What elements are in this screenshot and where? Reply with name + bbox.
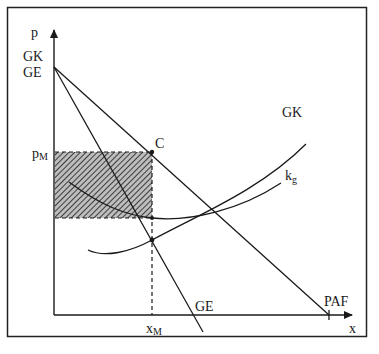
point-c bbox=[150, 150, 154, 154]
ge-label: GE bbox=[195, 299, 214, 314]
x-axis-label: x bbox=[349, 321, 356, 336]
paf-label: PAF bbox=[324, 294, 349, 309]
kg-label: kg bbox=[285, 168, 297, 185]
y-intercept-ge-label: GE bbox=[23, 65, 42, 80]
y-intercept-gk-label: GK bbox=[23, 49, 43, 64]
p-m-label: pM bbox=[32, 146, 48, 162]
x-m-label: xM bbox=[146, 321, 162, 337]
point-gk-ge bbox=[150, 238, 155, 243]
point-kg-xm bbox=[150, 216, 154, 220]
profit-area bbox=[55, 152, 152, 218]
monopoly-diagram: p GK GE pM C GK kg GE PAF xM x bbox=[0, 0, 379, 354]
gk-label: GK bbox=[282, 105, 302, 120]
y-axis-label: p bbox=[31, 25, 38, 40]
point-c-label: C bbox=[155, 136, 164, 151]
